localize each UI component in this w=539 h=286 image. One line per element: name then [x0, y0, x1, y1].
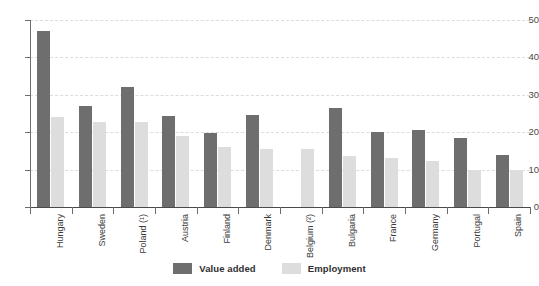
x-tick-mark	[155, 207, 156, 214]
x-axis-label: Spain	[513, 214, 523, 237]
x-axis-label: Austria	[180, 214, 190, 242]
plot-area	[30, 20, 530, 207]
bar-chart: 01020304050 HungarySwedenPoland (¹)Austr…	[0, 0, 539, 286]
legend-swatch-value-added	[173, 263, 192, 274]
x-axis-label: Denmark	[263, 214, 273, 251]
x-tick-mark	[30, 207, 31, 214]
x-tick-mark	[322, 207, 323, 214]
x-tick-mark	[113, 207, 114, 214]
x-axis-label: Portugal	[472, 214, 482, 248]
y-tick-label: 50	[517, 15, 539, 25]
y-tick-mark	[25, 170, 30, 171]
legend-item-value-added: Value added	[173, 263, 256, 274]
y-tick-label: 40	[517, 52, 539, 62]
x-axis-label: Bulgaria	[347, 214, 357, 247]
x-tick-mark	[72, 207, 73, 214]
x-axis-label: France	[388, 214, 398, 242]
y-axis-line	[30, 20, 31, 208]
chart-legend: Value added Employment	[0, 263, 539, 274]
legend-item-employment: Employment	[282, 263, 366, 274]
x-tick-mark	[405, 207, 406, 214]
y-tick-label: 20	[517, 127, 539, 137]
x-axis-label: Finland	[222, 214, 232, 244]
legend-label-value-added: Value added	[199, 263, 256, 274]
bar-value-added	[496, 155, 509, 207]
y-tick-mark	[25, 132, 30, 133]
y-tick-label: 0	[517, 202, 539, 212]
x-tick-mark	[238, 207, 239, 214]
x-tick-mark	[530, 207, 531, 214]
x-axis-label: Poland (¹)	[138, 214, 148, 254]
bar-group	[30, 20, 530, 207]
legend-label-employment: Employment	[308, 263, 366, 274]
y-tick-label: 10	[517, 165, 539, 175]
y-tick-label: 30	[517, 90, 539, 100]
y-tick-mark	[25, 20, 30, 21]
x-tick-mark	[488, 207, 489, 214]
y-tick-mark	[25, 57, 30, 58]
y-tick-mark	[25, 95, 30, 96]
x-axis-label: Belgium (²)	[305, 214, 315, 258]
x-axis-label: Sweden	[97, 214, 107, 247]
x-tick-mark	[363, 207, 364, 214]
x-tick-mark	[197, 207, 198, 214]
x-tick-mark	[447, 207, 448, 214]
x-axis-label: Hungary	[55, 214, 65, 248]
x-tick-mark	[280, 207, 281, 214]
x-axis-label: Germany	[430, 214, 440, 251]
legend-swatch-employment	[282, 263, 301, 274]
